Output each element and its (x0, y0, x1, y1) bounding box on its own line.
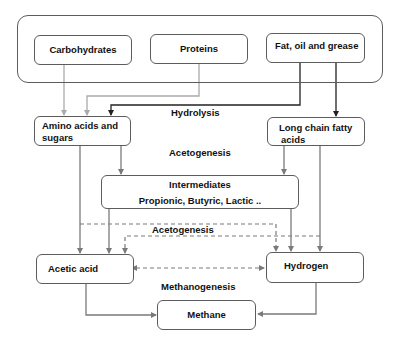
node-hydrogen: Hydrogen (266, 252, 364, 283)
node-intermediates-title: Intermediates (102, 179, 298, 191)
arrow-acetic-acid-to-methane (86, 284, 156, 315)
node-methane-label: Methane (187, 309, 226, 321)
node-amino-acids-sugars: Amino acids and sugars (34, 116, 131, 146)
node-intermediates-subtitle: Propionic, Butyric, Lactic .. (102, 195, 298, 207)
node-amino-acids-sugars-line1: Amino acids and (42, 120, 118, 132)
node-proteins-label: Proteins (180, 43, 218, 55)
node-proteins: Proteins (150, 34, 248, 64)
node-methane: Methane (157, 300, 256, 330)
stage-label-methanogenesis: Methanogenesis (161, 281, 235, 292)
stage-label-acetogenesis-2: Acetogenesis (152, 224, 214, 235)
node-carbohydrates: Carbohydrates (34, 35, 132, 65)
stage-label-hydrolysis: Hydrolysis (171, 107, 220, 118)
arrow-hydrogen-to-methane (258, 283, 316, 314)
node-lcfa-line1: Long chain fatty (279, 122, 352, 134)
node-fats-label: Fat, oil and grease (275, 40, 358, 52)
node-intermediates: Intermediates Propionic, Butyric, Lactic… (101, 175, 299, 209)
node-fats: Fat, oil and grease (266, 33, 365, 63)
anaerobic-digestion-diagram: Carbohydrates Proteins Fat, oil and grea… (0, 0, 395, 347)
stage-label-acetogenesis-1: Acetogenesis (169, 147, 231, 158)
node-amino-acids-sugars-line2: sugars (42, 132, 73, 144)
node-lcfa-line2: acids (281, 134, 305, 146)
node-long-chain-fatty-acids: Long chain fatty acids (267, 117, 365, 146)
node-acetic-acid-label: Acetic acid (48, 263, 98, 275)
node-carbohydrates-label: Carbohydrates (49, 44, 116, 56)
node-hydrogen-label: Hydrogen (284, 260, 328, 272)
node-acetic-acid: Acetic acid (36, 254, 134, 284)
